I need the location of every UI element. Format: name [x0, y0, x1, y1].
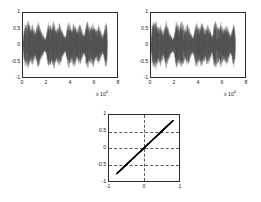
- xtick-label-source-4: 8: [117, 80, 120, 85]
- x-exponent-power-recovered: 4: [234, 90, 236, 94]
- x-exponent-power-source: 4: [106, 90, 108, 94]
- xtick-label-scatter-0: -1: [106, 184, 110, 189]
- ytick-label-source-4: -1: [16, 75, 20, 80]
- x-exponent-label-source: x 104: [96, 92, 108, 97]
- xtick-label-source-2: 4: [69, 80, 72, 85]
- xtick-label-recovered-0: 0: [149, 80, 152, 85]
- axes-source-signal: 1 0.5 0 -0.5 -1 0 2 4 6 8 x 104: [22, 12, 118, 78]
- x-exponent-mantissa-recovered: x 10: [224, 91, 234, 97]
- xtick-label-recovered-4: 8: [245, 80, 248, 85]
- scatter-identity-line: [109, 115, 179, 181]
- ytick-label-source-1: 0.5: [13, 26, 20, 31]
- ytick-label-scatter-1: 0.5: [99, 128, 106, 133]
- figure-canvas: 1 0.5 0 -0.5 -1 0 2 4 6 8 x 104 1 0.5 0 …: [0, 0, 261, 202]
- xtick-label-source-3: 6: [93, 80, 96, 85]
- ytick-label-recovered-1: 0.5: [141, 26, 148, 31]
- ytick-label-scatter-2: 0: [103, 145, 106, 150]
- axes-correlation-scatter: 1 0.5 0 -0.5 -1 -1 0 1: [108, 114, 180, 182]
- axes-frame-recovered-signal: [150, 12, 246, 78]
- ytick-label-recovered-2: 0: [145, 42, 148, 47]
- waveform-recovered-signal: [151, 13, 245, 77]
- ytick-label-recovered-3: -0.5: [139, 59, 148, 64]
- axes-recovered-signal: 1 0.5 0 -0.5 -1 0 2 4 6 8 x 104: [150, 12, 246, 78]
- ytick-label-scatter-3: -0.5: [97, 162, 106, 167]
- xtick-label-source-0: 0: [21, 80, 24, 85]
- xtick-label-source-1: 2: [45, 80, 48, 85]
- ytick-label-source-0: 1: [17, 9, 20, 14]
- axes-frame-source-signal: [22, 12, 118, 78]
- xtick-label-recovered-2: 4: [197, 80, 200, 85]
- xtick-label-scatter-2: 1: [179, 184, 182, 189]
- x-exponent-label-recovered: x 104: [224, 92, 236, 97]
- xtick-label-recovered-3: 6: [221, 80, 224, 85]
- axes-frame-correlation-scatter: [108, 114, 180, 182]
- xtick-label-scatter-1: 0: [143, 184, 146, 189]
- ytick-label-source-2: 0: [17, 42, 20, 47]
- waveform-source-signal: [23, 13, 117, 77]
- ytick-label-recovered-4: -1: [144, 75, 148, 80]
- ytick-label-source-3: -0.5: [11, 59, 20, 64]
- ytick-label-scatter-0: 1: [103, 111, 106, 116]
- xtick-label-recovered-1: 2: [173, 80, 176, 85]
- ytick-label-recovered-0: 1: [145, 9, 148, 14]
- x-exponent-mantissa-source: x 10: [96, 91, 106, 97]
